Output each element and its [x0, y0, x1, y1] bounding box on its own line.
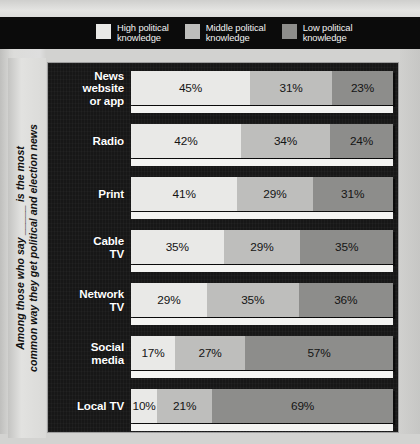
bar-value-label: 27% [198, 346, 221, 360]
row-separator [131, 106, 393, 113]
stacked-bar: 10%21%69% [131, 389, 393, 423]
bar-segment-low: 57% [245, 336, 393, 370]
bar-segment-high: 17% [131, 336, 175, 370]
bar-segment-middle: 34% [241, 124, 330, 158]
bar-value-label: 34% [274, 134, 297, 148]
bar-value-label: 21% [173, 399, 196, 413]
row-separator [131, 212, 393, 219]
bar-value-label: 29% [250, 240, 273, 254]
bar-segment-middle: 29% [224, 230, 301, 264]
bar-value-label: 35% [335, 240, 358, 254]
stacked-bar: 45%31%23% [131, 71, 393, 105]
bar-segment-low: 31% [313, 177, 393, 211]
stacked-bar: 41%29%31% [131, 177, 393, 211]
bar-segment-low: 35% [300, 230, 393, 264]
bar-segment-high: 42% [131, 124, 241, 158]
bar-value-label: 31% [279, 81, 302, 95]
bar-value-label: 29% [157, 293, 180, 307]
bar-segment-middle: 31% [250, 71, 332, 105]
category-label: Cable TV [48, 235, 131, 260]
legend-item: Middle political knowledge [185, 23, 266, 44]
legend-item-label: High political knowledge [117, 23, 169, 44]
row-separator [131, 265, 393, 272]
page-right-margin [400, 49, 420, 444]
bar-segment-high: 10% [131, 389, 157, 423]
bar-segment-low: 69% [212, 389, 393, 423]
legend-item: Low political knowledge [282, 23, 353, 44]
stacked-bar: 17%27%57% [131, 336, 393, 370]
category-label: Network TV [48, 288, 131, 313]
bar-value-label: 36% [334, 293, 357, 307]
bar-value-label: 69% [291, 399, 314, 413]
category-label: Print [48, 188, 131, 201]
bar-segment-high: 29% [131, 283, 207, 317]
row-separator [131, 371, 393, 378]
bar-segment-low: 23% [332, 71, 393, 105]
bar-segment-high: 41% [131, 177, 237, 211]
bar-value-label: 29% [263, 187, 286, 201]
bar-segment-middle: 21% [157, 389, 212, 423]
bar-value-label: 23% [351, 81, 374, 95]
row-separator [131, 318, 393, 325]
bar-segment-low: 36% [299, 283, 393, 317]
bar-value-label: 45% [179, 81, 202, 95]
page-background: High political knowledgeMiddle political… [0, 0, 420, 444]
category-label: News website or app [48, 70, 131, 108]
category-label: Local TV [48, 400, 131, 413]
stacked-bar: 35%29%35% [131, 230, 393, 264]
legend-swatch-middle [185, 24, 200, 39]
category-label: Social media [48, 341, 131, 366]
stacked-bar-plot: News website or app45%31%23%Radio42%34%2… [48, 63, 399, 433]
bar-value-label: 24% [350, 134, 373, 148]
bar-value-label: 35% [166, 240, 189, 254]
legend-swatch-low [282, 24, 297, 39]
bar-value-label: 10% [132, 399, 155, 413]
row-separator [131, 159, 393, 166]
legend-item: High political knowledge [96, 23, 169, 44]
bar-value-label: 35% [241, 293, 264, 307]
row-separator [131, 424, 393, 431]
bar-value-label: 57% [307, 346, 330, 360]
stacked-bar: 29%35%36% [131, 283, 393, 317]
bar-segment-middle: 27% [175, 336, 245, 370]
bar-value-label: 41% [173, 187, 196, 201]
page-bottom-margin [0, 434, 420, 444]
bar-value-label: 42% [174, 134, 197, 148]
stacked-bar: 42%34%24% [131, 124, 393, 158]
bar-value-label: 31% [341, 187, 364, 201]
bar-segment-middle: 35% [207, 283, 299, 317]
page-top-margin [0, 0, 420, 17]
bar-segment-low: 24% [330, 124, 393, 158]
bar-value-label: 17% [141, 346, 164, 360]
legend-swatch-high [96, 24, 111, 39]
chart-panel: News website or app45%31%23%Radio42%34%2… [47, 62, 399, 433]
bar-segment-high: 45% [131, 71, 250, 105]
bar-segment-high: 35% [131, 230, 224, 264]
legend-item-label: Low political knowledge [303, 23, 353, 44]
chart-legend: High political knowledgeMiddle political… [0, 17, 420, 49]
caption-strip [8, 58, 46, 438]
bar-segment-middle: 29% [237, 177, 312, 211]
category-label: Radio [48, 135, 131, 148]
legend-item-label: Middle political knowledge [206, 23, 266, 44]
